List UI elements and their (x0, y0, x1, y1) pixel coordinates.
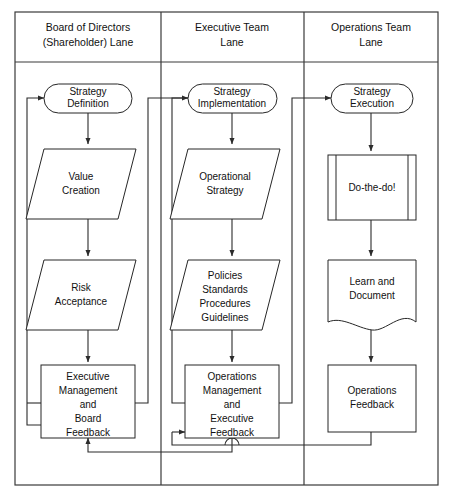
lane-title-operations-line1: Operations Team (331, 21, 411, 33)
connector-operations-management-loop-to-strategy-implementation (172, 98, 188, 403)
lane-header-board: Board of Directors (Shareholder) Lane (43, 21, 134, 48)
node-operations-feedback[interactable]: Operations Feedback (328, 365, 416, 432)
lane-title-executive-line2: Lane (220, 36, 244, 48)
node-exec-mgmt-line5: Feedback (66, 427, 111, 438)
node-strategy-execution-line2: Execution (350, 98, 394, 109)
node-policies-line3: Procedures (199, 298, 250, 309)
node-do-the-do-label: Do-the-do! (348, 182, 395, 193)
node-risk-acceptance[interactable]: Risk Acceptance (26, 260, 136, 330)
node-strategy-definition[interactable]: Strategy Definition (44, 84, 132, 113)
node-risk-acceptance-line2: Acceptance (55, 296, 108, 307)
node-operations-feedback-line1: Operations (348, 385, 397, 396)
node-exec-mgmt-line3: and (80, 399, 97, 410)
node-policies-line2: Standards (202, 284, 248, 295)
node-learn-and-document-line2: Document (349, 290, 395, 301)
swimlane-diagram: Board of Directors (Shareholder) Lane Ex… (0, 0, 453, 496)
lane-title-operations-line2: Lane (359, 36, 383, 48)
node-strategy-definition-line1: Strategy (69, 86, 106, 97)
node-operational-strategy-line2: Strategy (206, 185, 243, 196)
node-exec-mgmt-line2: Management (59, 385, 118, 396)
lane-title-board-line1: Board of Directors (46, 21, 131, 33)
node-operational-strategy-line1: Operational (199, 171, 251, 182)
connector-operations-management-to-strategy-execution (279, 98, 331, 403)
node-policies-standards-procedures-guidelines[interactable]: Policies Standards Procedures Guidelines (170, 260, 280, 330)
node-strategy-implementation-line2: Implementation (198, 98, 266, 109)
lane-title-board-line2: (Shareholder) Lane (43, 36, 134, 48)
node-value-creation[interactable]: Value Creation (26, 149, 136, 219)
node-exec-mgmt-line4: Board (75, 413, 102, 424)
node-learn-and-document[interactable]: Learn and Document (328, 260, 416, 330)
lane-header-operations: Operations Team Lane (331, 21, 411, 48)
node-policies-line1: Policies (208, 270, 242, 281)
node-strategy-execution[interactable]: Strategy Execution (331, 84, 413, 113)
node-learn-and-document-line1: Learn and (349, 276, 394, 287)
node-ops-mgmt-line3: and (224, 399, 241, 410)
node-ops-mgmt-line5: Feedback (210, 427, 255, 438)
node-value-creation-line1: Value (69, 171, 94, 182)
node-do-the-do[interactable]: Do-the-do! (328, 155, 416, 220)
node-exec-mgmt-line1: Executive (66, 371, 110, 382)
node-ops-mgmt-line2: Management (203, 385, 262, 396)
lane-header-executive: Executive Team Lane (195, 21, 269, 48)
node-policies-line4: Guidelines (201, 312, 248, 323)
node-strategy-implementation-line1: Strategy (213, 86, 250, 97)
node-risk-acceptance-line1: Risk (71, 282, 91, 293)
node-executive-management-and-board-feedback[interactable]: Executive Management and Board Feedback (41, 365, 135, 438)
node-ops-mgmt-line1: Operations (208, 371, 257, 382)
node-operational-strategy[interactable]: Operational Strategy (170, 149, 280, 219)
node-strategy-implementation[interactable]: Strategy Implementation (188, 84, 277, 113)
node-ops-mgmt-line4: Executive (210, 413, 254, 424)
node-strategy-definition-line2: Definition (67, 98, 109, 109)
node-strategy-execution-line1: Strategy (353, 86, 390, 97)
lane-title-executive-line1: Executive Team (195, 21, 269, 33)
node-operations-management-and-executive-feedback[interactable]: Operations Management and Executive Feed… (185, 365, 279, 438)
node-value-creation-line2: Creation (62, 185, 100, 196)
node-operations-feedback-line2: Feedback (350, 399, 395, 410)
